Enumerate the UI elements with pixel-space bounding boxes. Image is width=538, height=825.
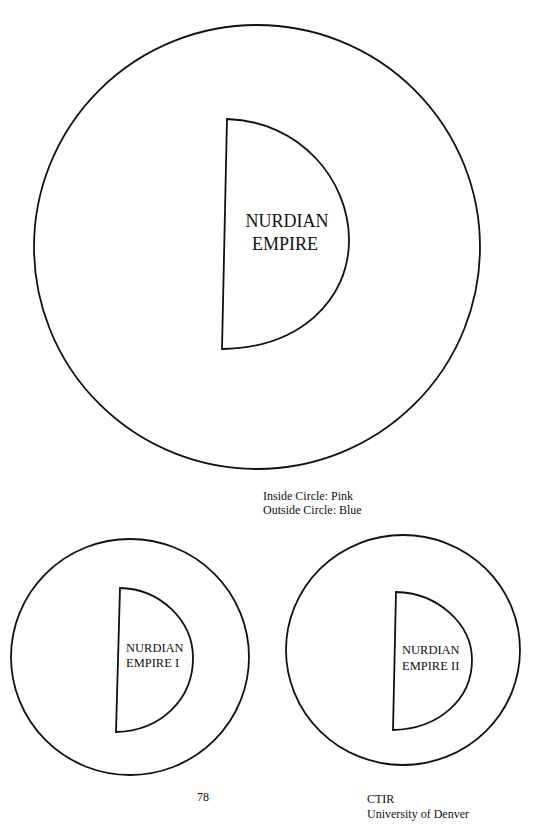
nurdian-empire-diagram: NURDIAN EMPIRE Inside Circle: Pink Outsi…	[0, 0, 538, 825]
page-footer: 78 CTIR University of Denver	[197, 790, 469, 821]
legend-inside-circle: Inside Circle: Pink	[263, 489, 353, 503]
variant-1-label-line1: NURDIAN	[126, 641, 184, 655]
variant-2-label-line1: NURDIAN	[402, 643, 460, 657]
page-number: 78	[197, 790, 209, 804]
variant-diagram-1: NURDIAN EMPIRE I	[11, 539, 249, 775]
main-diagram: NURDIAN EMPIRE	[34, 25, 480, 469]
legend-outside-circle: Outside Circle: Blue	[263, 503, 362, 517]
main-label-line1: NURDIAN	[246, 211, 329, 231]
org-line-1: CTIR	[367, 792, 394, 806]
main-label-line2: EMPIRE	[252, 234, 318, 254]
org-line-2: University of Denver	[367, 807, 469, 821]
variant-diagram-2: NURDIAN EMPIRE II	[286, 535, 520, 765]
variant-2-label-line2: EMPIRE II	[402, 659, 459, 673]
color-legend: Inside Circle: Pink Outside Circle: Blue	[263, 489, 362, 517]
variant-1-label-line2: EMPIRE I	[126, 656, 179, 670]
